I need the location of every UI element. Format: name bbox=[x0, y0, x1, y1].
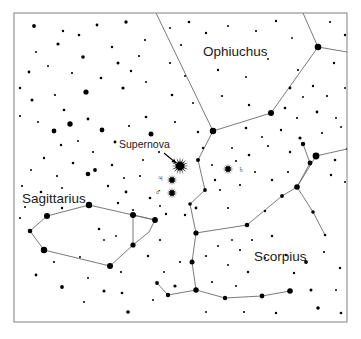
star-point bbox=[211, 281, 213, 283]
star-point bbox=[296, 117, 298, 119]
star-point bbox=[316, 306, 320, 310]
star-point bbox=[301, 142, 305, 146]
star-point bbox=[139, 175, 141, 177]
star-point bbox=[83, 89, 88, 94]
star-point bbox=[61, 207, 63, 209]
star-point bbox=[77, 140, 79, 142]
star-point bbox=[344, 34, 346, 36]
star-point bbox=[115, 235, 117, 237]
star-point bbox=[193, 287, 198, 292]
star-chart: ♃♂♄ SupernovaOphiuchusSagittariusScorpiu… bbox=[0, 0, 361, 339]
star-point bbox=[86, 172, 91, 177]
star-point bbox=[166, 293, 170, 297]
star-point bbox=[152, 217, 158, 223]
star-point bbox=[79, 256, 81, 258]
star-point bbox=[37, 121, 39, 123]
star-point bbox=[239, 249, 241, 251]
star-point bbox=[138, 55, 140, 57]
star-point bbox=[310, 289, 313, 292]
star-point bbox=[260, 294, 265, 299]
star-point bbox=[130, 70, 132, 72]
star-point bbox=[145, 116, 148, 119]
star-point bbox=[280, 129, 282, 131]
scorpius-label: Scorpius bbox=[254, 249, 307, 264]
star-point bbox=[128, 125, 130, 127]
star-point bbox=[107, 263, 113, 269]
star-point bbox=[315, 44, 322, 51]
star-point bbox=[227, 25, 229, 27]
star-point bbox=[56, 42, 59, 45]
star-point bbox=[184, 75, 186, 77]
star-point bbox=[121, 86, 124, 89]
star-point bbox=[100, 128, 105, 133]
star-point bbox=[86, 202, 92, 208]
star-point bbox=[87, 277, 89, 279]
star-point bbox=[298, 136, 301, 139]
star-point bbox=[169, 27, 171, 29]
star-point bbox=[130, 212, 136, 218]
star-point bbox=[152, 299, 154, 301]
supernova-marker-core bbox=[176, 162, 185, 171]
star-point bbox=[155, 281, 159, 285]
star-point bbox=[53, 261, 55, 263]
star-point bbox=[159, 239, 161, 241]
star-point bbox=[261, 136, 263, 138]
star-point bbox=[103, 239, 105, 241]
star-point bbox=[87, 118, 90, 121]
star-point bbox=[223, 296, 227, 300]
star-point bbox=[205, 255, 207, 257]
star-point bbox=[103, 290, 106, 293]
star-point bbox=[114, 141, 117, 144]
star-point bbox=[124, 20, 127, 23]
star-point bbox=[192, 102, 194, 104]
star-point bbox=[158, 151, 160, 153]
star-point bbox=[21, 185, 23, 187]
star-point bbox=[251, 239, 253, 241]
star-point bbox=[245, 223, 250, 228]
star-point bbox=[321, 132, 323, 134]
star-point bbox=[335, 289, 337, 291]
star-point bbox=[205, 32, 207, 34]
star-point bbox=[293, 272, 295, 274]
star-point bbox=[19, 115, 21, 117]
star-point bbox=[280, 194, 284, 198]
star-point bbox=[344, 181, 346, 183]
star-point bbox=[173, 284, 176, 287]
star-point bbox=[221, 95, 223, 97]
star-point bbox=[202, 147, 204, 149]
star-point bbox=[63, 109, 66, 112]
star-point bbox=[83, 301, 85, 303]
star-point bbox=[227, 264, 229, 266]
star-point bbox=[179, 261, 181, 263]
star-point bbox=[188, 21, 191, 24]
star-point bbox=[219, 189, 221, 191]
star-point bbox=[31, 99, 34, 102]
star-point bbox=[275, 20, 277, 22]
star-point bbox=[231, 147, 233, 149]
star-point bbox=[163, 271, 165, 273]
star-point bbox=[190, 260, 195, 265]
star-point bbox=[311, 210, 315, 214]
star-point bbox=[159, 205, 161, 207]
star-point bbox=[239, 184, 241, 186]
star-point bbox=[289, 151, 291, 153]
star-point bbox=[247, 271, 249, 273]
star-point bbox=[217, 69, 219, 71]
star-point bbox=[254, 171, 256, 173]
star-point bbox=[19, 217, 21, 219]
star-point bbox=[203, 188, 207, 192]
star-point bbox=[271, 179, 273, 181]
star-point bbox=[98, 228, 101, 231]
star-point bbox=[308, 161, 313, 166]
star-point bbox=[24, 206, 26, 208]
sky-map-canvas: ♃♂♄ SupernovaOphiuchusSagittariusScorpiu… bbox=[0, 0, 361, 339]
star-point bbox=[217, 245, 219, 247]
star-point bbox=[169, 62, 171, 64]
star-point bbox=[35, 51, 37, 53]
star-point bbox=[323, 251, 325, 253]
star-point bbox=[340, 126, 342, 128]
jupiter-symbol-icon: ♃ bbox=[157, 173, 164, 183]
star-point bbox=[41, 247, 47, 253]
star-point bbox=[275, 312, 277, 314]
star-point bbox=[111, 46, 113, 48]
